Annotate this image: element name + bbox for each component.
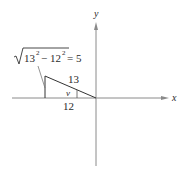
hypotenuse-label: 13	[68, 73, 80, 85]
x-axis-label: x	[171, 92, 177, 103]
radicand-a: 13	[24, 52, 36, 64]
coordinate-diagram: y x 13 v 12 13 2 − 12 2 = 5	[0, 0, 186, 169]
angle-label: v	[66, 88, 70, 98]
x-axis-arrow-icon	[161, 96, 169, 100]
exponent-a: 2	[36, 49, 40, 57]
y-axis-label: y	[93, 8, 99, 19]
equals-result: = 5	[67, 52, 82, 64]
formula: 13 2 − 12 2 = 5	[14, 48, 82, 64]
exponent-b: 2	[62, 49, 66, 57]
radicand-b: 12	[50, 52, 61, 64]
minus-sign: −	[41, 52, 47, 64]
y-axis-arrow-icon	[94, 22, 98, 30]
adjacent-label: 12	[63, 100, 74, 112]
leader-line	[38, 66, 45, 88]
